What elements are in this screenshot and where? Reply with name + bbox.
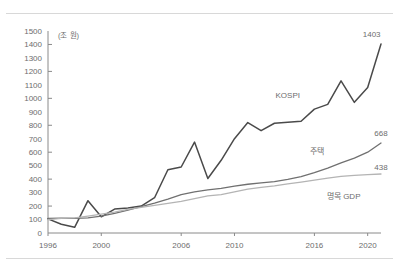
housing-end-label: 668	[374, 129, 388, 138]
y-tick-label: 200	[29, 202, 43, 211]
y-tick-label: 700	[29, 135, 43, 144]
y-tick-label: 1100	[25, 81, 43, 90]
x-axis-tick-labels: 199620002006201020162020	[39, 241, 377, 250]
y-tick-label: 300	[29, 188, 43, 197]
kospi-series-label: KOSPI	[276, 91, 300, 100]
y-axis-ticks	[48, 44, 52, 206]
y-tick-label: 400	[29, 175, 43, 184]
y-tick-label: 900	[29, 108, 43, 117]
x-tick-label: 2020	[359, 241, 377, 250]
x-tick-label: 2010	[226, 241, 244, 250]
y-tick-label: 1500	[24, 27, 42, 36]
y-tick-label: 500	[29, 161, 43, 170]
y-axis-unit-label: (조 원)	[58, 31, 80, 40]
chart-annotations: KOSPI주택명목 GDP1403668438	[276, 30, 389, 201]
kospi-end-label: 1403	[363, 30, 381, 39]
gdp-end-label: 438	[374, 163, 388, 172]
line-chart-svg: 0100200300400500600700800900100011001200…	[0, 0, 399, 273]
y-tick-label: 1000	[24, 94, 42, 103]
gdp-series-label: 명목 GDP	[327, 191, 361, 201]
y-tick-label: 800	[29, 121, 43, 130]
y-tick-label: 1300	[24, 54, 42, 63]
y-tick-label: 100	[29, 215, 43, 224]
housing-series-label: 주택	[310, 146, 324, 156]
chart-figure: 0100200300400500600700800900100011001200…	[0, 0, 399, 273]
y-axis-tick-labels: 0100200300400500600700800900100011001200…	[24, 27, 42, 238]
x-tick-label: 1996	[39, 241, 57, 250]
x-tick-label: 2006	[172, 241, 190, 250]
y-tick-label: 1200	[24, 67, 42, 76]
x-tick-label: 2000	[92, 241, 110, 250]
x-tick-label: 2016	[306, 241, 324, 250]
y-tick-label: 1400	[24, 40, 42, 49]
y-tick-label: 600	[29, 148, 43, 157]
y-tick-label: 0	[38, 229, 43, 238]
series-line-housing	[48, 143, 381, 218]
